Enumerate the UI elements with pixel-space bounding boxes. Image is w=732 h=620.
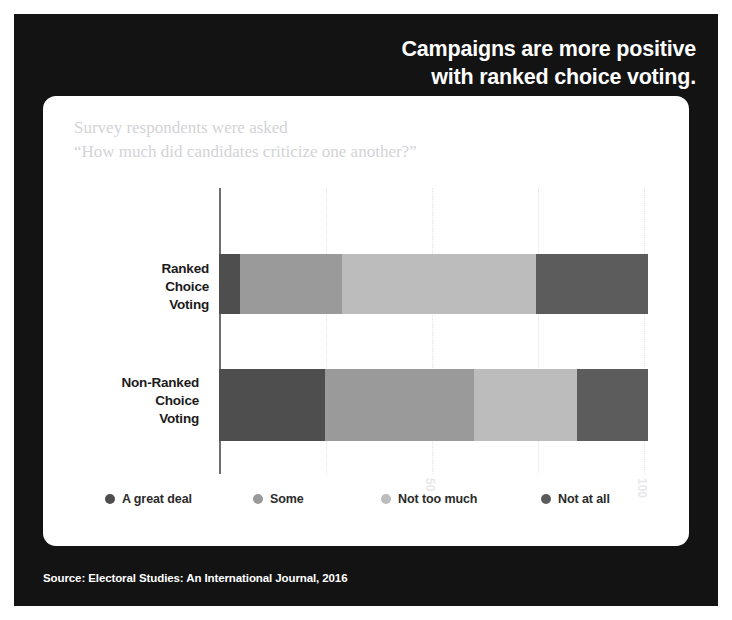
bar-group-ranked-choice-voting xyxy=(219,254,648,314)
category-label-ranked-choice-voting: Ranked Choice Voting xyxy=(59,260,209,314)
category-label-line-2: Choice xyxy=(59,278,209,296)
legend-label: A great deal xyxy=(122,492,192,506)
category-label-line-3: Voting xyxy=(49,410,199,428)
category-label-line-2: Choice xyxy=(49,392,199,410)
stacked-bar xyxy=(219,254,648,314)
legend-item-not-at-all[interactable]: Not at all xyxy=(541,492,610,506)
legend-swatch-circle-icon xyxy=(105,494,115,504)
legend-item-some[interactable]: Some xyxy=(253,492,381,506)
legend-label: Not too much xyxy=(398,492,477,506)
bar-segment-some[interactable] xyxy=(325,369,474,441)
legend-swatch-circle-icon xyxy=(253,494,263,504)
bar-segment-not-at-all[interactable] xyxy=(536,254,648,314)
bar-segment-a-great-deal[interactable] xyxy=(219,369,325,441)
bar-segment-some[interactable] xyxy=(240,254,342,314)
slide-canvas: Campaigns are more positive with ranked … xyxy=(14,14,718,606)
source-note: Source: Electoral Studies: An Internatio… xyxy=(43,572,347,584)
bar-group-non-ranked-choice-voting xyxy=(219,369,648,441)
category-label-non-ranked-choice-voting: Non-Ranked Choice Voting xyxy=(49,374,199,428)
legend-item-not-too-much[interactable]: Not too much xyxy=(381,492,541,506)
legend-label: Some xyxy=(270,492,304,506)
stacked-bar xyxy=(219,369,648,441)
legend-item-a-great-deal[interactable]: A great deal xyxy=(105,492,253,506)
bar-segment-not-too-much[interactable] xyxy=(474,369,577,441)
bar-segment-not-at-all[interactable] xyxy=(577,369,648,441)
legend-swatch-circle-icon xyxy=(541,494,551,504)
category-label-line-1: Non-Ranked xyxy=(49,374,199,392)
plot-area: Ranked Choice Voting Non-Ranked Choice V… xyxy=(43,96,689,546)
slide-headline: Campaigns are more positive with ranked … xyxy=(266,36,696,91)
bar-segment-a-great-deal[interactable] xyxy=(219,254,240,314)
bar-segment-not-too-much[interactable] xyxy=(342,254,536,314)
chart-card: Survey respondents were asked “How much … xyxy=(43,96,689,546)
category-label-line-1: Ranked xyxy=(59,260,209,278)
headline-line-1: Campaigns are more positive xyxy=(266,36,696,64)
chart-legend: A great deal Some Not too much Not at al… xyxy=(105,492,665,506)
x-tick-label-50: 50 xyxy=(423,478,437,491)
category-label-line-3: Voting xyxy=(59,296,209,314)
headline-line-2: with ranked choice voting. xyxy=(266,64,696,92)
legend-label: Not at all xyxy=(558,492,610,506)
legend-swatch-circle-icon xyxy=(381,494,391,504)
